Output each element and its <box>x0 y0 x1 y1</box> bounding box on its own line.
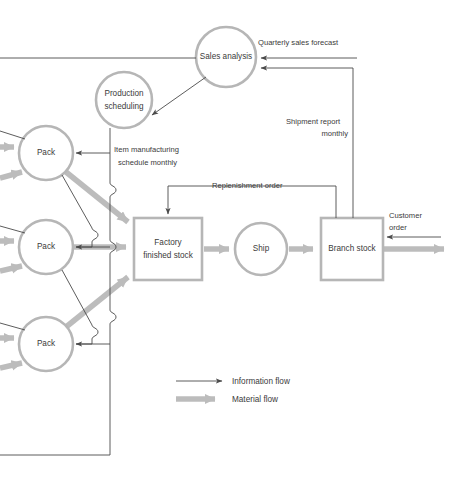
label-branch-stock: Branch stock <box>328 244 376 253</box>
info-line-into-pack-3-top <box>0 323 25 330</box>
label-shipment-report-line2: monthly <box>321 129 348 138</box>
label-quarterly-sales-forecast: Quarterly sales forecast <box>258 38 339 47</box>
label-ship: Ship <box>253 244 270 253</box>
label-production-scheduling-line2: scheduling <box>104 102 144 111</box>
material-arrow-pack-1-to-factory <box>66 172 128 222</box>
label-item-manufacturing-line2: schedule monthly <box>118 158 177 167</box>
label-item-manufacturing-line1: Item manufacturing <box>114 145 179 154</box>
node-production-scheduling[interactable] <box>96 72 152 128</box>
legend-information-flow-label: Information flow <box>232 377 290 386</box>
edge-labels: Quarterly sales forecast Shipment report… <box>114 38 422 232</box>
material-arrow-pack-3-to-factory <box>66 277 128 327</box>
material-arrow-into-pack-3-b <box>0 363 22 368</box>
label-factory-finished-stock-line1: Factory <box>154 238 182 247</box>
material-arrow-into-pack-1-b <box>0 172 22 178</box>
node-factory-finished-stock[interactable] <box>134 218 202 280</box>
info-arrow-shipment-report <box>261 68 353 218</box>
label-shipment-report-line1: Shipment report <box>286 117 341 126</box>
material-arrow-into-pack-2-b <box>0 266 22 271</box>
label-factory-finished-stock-line2: finished stock <box>143 251 194 260</box>
label-pack-3: Pack <box>37 339 56 348</box>
info-line-into-pack-1-top <box>0 131 25 139</box>
label-replenishment-order: Replenishment order <box>212 181 283 190</box>
flow-diagram: Sales analysis Production scheduling Pac… <box>0 0 456 490</box>
label-sales-analysis: Sales analysis <box>200 52 252 61</box>
info-arrow-replenishment-order <box>168 186 336 218</box>
legend-material-flow-label: Material flow <box>232 395 278 404</box>
info-line-into-pack-2-top <box>0 226 25 233</box>
info-arrow-sales-to-production-scheduling <box>152 77 206 115</box>
label-customer-order-line1: Customer <box>389 211 422 220</box>
label-production-scheduling-line1: Production <box>104 89 144 98</box>
node-labels: Sales analysis Production scheduling Pac… <box>37 52 377 348</box>
label-pack-1: Pack <box>37 148 56 157</box>
label-pack-2: Pack <box>37 242 56 251</box>
diagram-canvas: Sales analysis Production scheduling Pac… <box>0 0 456 490</box>
label-customer-order-line2: order <box>389 223 407 232</box>
legend: Information flow Material flow <box>176 377 290 404</box>
